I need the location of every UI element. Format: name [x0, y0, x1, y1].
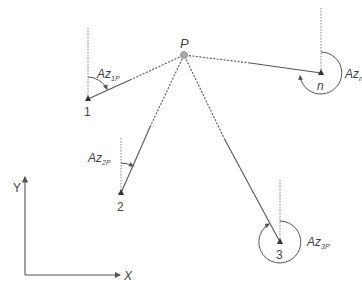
point-p-label: P [180, 36, 189, 51]
sight-line-1p-solid [88, 80, 130, 99]
station-label-1: 1 [84, 105, 91, 119]
sight-line-np-dashed [184, 55, 250, 63]
svg-text:Az2P: Az2P [87, 151, 111, 166]
svg-text:Az1P: Az1P [96, 67, 120, 82]
sight-line-np-solid [250, 63, 321, 73]
x-axis-label: X [123, 269, 133, 283]
y-axis-label: Y [13, 181, 21, 195]
station-label-n: n [317, 79, 324, 93]
sight-line-3p-dashed [184, 55, 225, 140]
sight-line-3p-solid [225, 140, 280, 242]
sight-line-2p-solid [121, 127, 150, 193]
az-label-1p: Az1P [96, 67, 120, 82]
station-label-2: 2 [117, 200, 124, 214]
svg-text:Az3P: Az3P [306, 235, 330, 250]
station-marker-2 [118, 189, 124, 195]
az-label-3p: Az3P [306, 235, 330, 250]
station-marker-n [318, 69, 324, 75]
station-label-3: 3 [276, 248, 283, 262]
sight-line-1p-dashed [130, 55, 184, 80]
point-p-marker [181, 52, 188, 59]
azimuth-diagram: P 1 2 3 n Az1P Az2P Az3P Azn Y X [0, 0, 362, 287]
sight-line-2p-dashed [150, 55, 184, 127]
az-label-2p: Az2P [87, 151, 111, 166]
svg-text:Azn: Azn [344, 67, 362, 82]
coordinate-axes [25, 177, 120, 275]
az-arc-2p [121, 163, 133, 166]
azimuth-arcs [88, 52, 342, 263]
az-label-np: Azn [344, 67, 362, 82]
